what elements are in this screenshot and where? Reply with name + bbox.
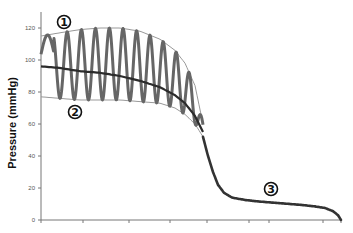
- deflation-tail: [203, 137, 341, 220]
- y-tick-label: 60: [28, 121, 35, 127]
- svg-text:3: 3: [267, 183, 275, 196]
- y-axis-label: Pressure (mmHg): [6, 73, 18, 173]
- y-tick-label: 0: [32, 217, 36, 223]
- y-tick-label: 120: [25, 25, 36, 31]
- svg-text:2: 2: [71, 106, 79, 119]
- marker-2: 2: [69, 106, 82, 120]
- y-tick-label: 20: [28, 185, 35, 191]
- y-tick-label: 40: [28, 153, 35, 159]
- y-tick-label: 80: [28, 89, 35, 95]
- y-tick-label: 100: [25, 57, 36, 63]
- marker-3: 3: [265, 183, 278, 197]
- svg-text:1: 1: [60, 16, 68, 29]
- pressure-chart: 020406080100120 123: [0, 0, 353, 233]
- deflation-tail-curve: [203, 137, 341, 220]
- marker-1: 1: [58, 16, 71, 30]
- lower-envelope: [41, 97, 203, 137]
